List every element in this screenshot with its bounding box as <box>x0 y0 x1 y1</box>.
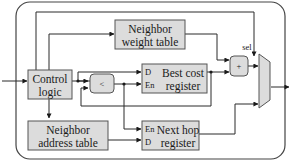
next-hop-label-2: register <box>161 137 196 150</box>
next-hop-register-block: En D Next hop register <box>142 121 199 150</box>
weight-to-adder-wire <box>185 34 229 60</box>
routing-datapath-diagram: Control logic Neighbor weight table < D … <box>0 0 290 163</box>
nexthop-port-en: En <box>145 124 155 134</box>
adder-block: + <box>230 56 248 76</box>
comparator-block: < <box>90 74 114 93</box>
junction-dot <box>76 79 79 82</box>
weight-table-label-2: weight table <box>122 36 179 49</box>
comparator-symbol: < <box>100 79 105 89</box>
neighbor-address-table-block: Neighbor address table <box>28 121 108 150</box>
best-cost-label-1: Best cost <box>162 67 205 79</box>
address-table-label-2: address table <box>38 137 98 149</box>
next-hop-label-1: Next hop <box>157 124 200 137</box>
junction-dot <box>122 82 125 85</box>
best-cost-label-2: register <box>166 80 201 93</box>
address-table-label-1: Neighbor <box>46 124 90 137</box>
mux-sel-label: sel <box>242 42 252 52</box>
ctrl-to-weight-wire <box>49 34 114 70</box>
control-logic-label-2: logic <box>39 86 62 99</box>
adder-symbol: + <box>237 61 242 71</box>
bestcost-port-d: D <box>145 67 151 77</box>
neighbor-weight-table-block: Neighbor weight table <box>115 20 185 49</box>
nexthop-port-d: D <box>145 137 151 147</box>
junction-dot <box>209 70 212 73</box>
best-cost-register-block: D En Best cost register <box>142 64 207 93</box>
control-logic-label-1: Control <box>32 73 67 85</box>
control-logic-block: Control logic <box>28 70 72 99</box>
weight-table-label-1: Neighbor <box>128 23 172 36</box>
bestcost-port-en: En <box>145 80 155 90</box>
nexthop-to-mux-wire <box>199 104 258 134</box>
